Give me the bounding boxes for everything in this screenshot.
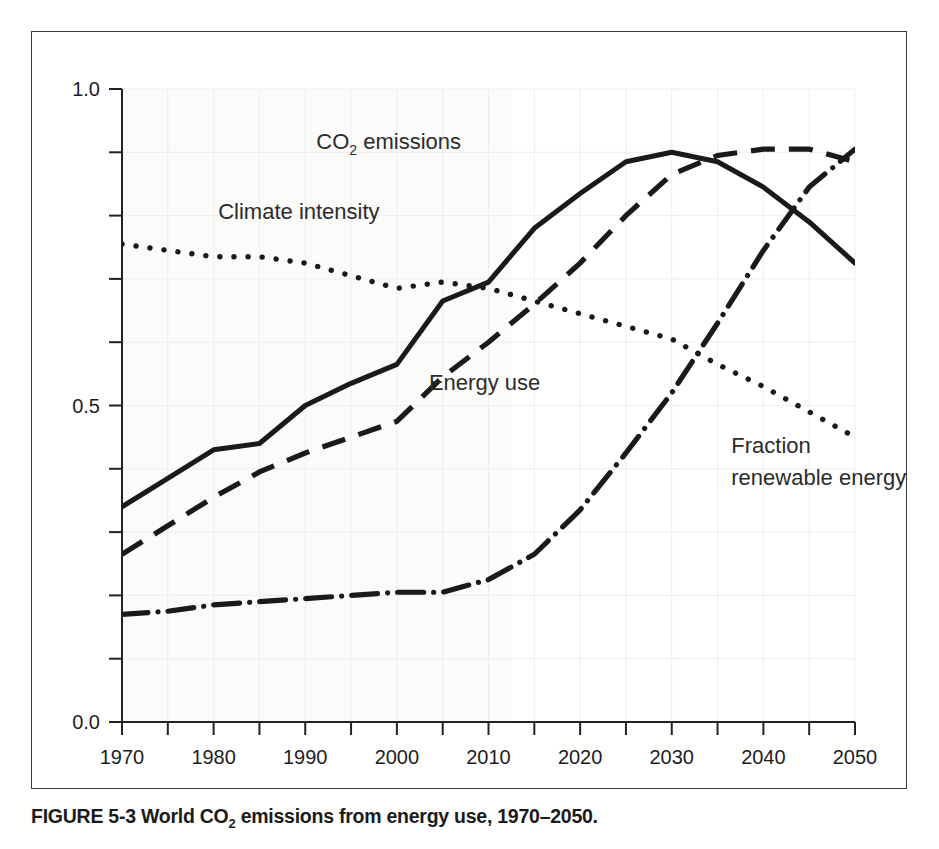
- figure-caption: FIGURE 5-3 World CO2 emissions from ener…: [31, 805, 907, 831]
- x-tick-label-2040: 2040: [741, 746, 786, 768]
- label-energy-use: Energy use: [429, 370, 540, 395]
- caption-prefix: FIGURE 5-3 World CO: [31, 805, 229, 827]
- caption-suffix: emissions from energy use, 1970–2050.: [235, 805, 597, 827]
- x-tick-label-2020: 2020: [558, 746, 603, 768]
- y-axis-ticks: [109, 89, 122, 722]
- label-climate-intensity: Climate intensity: [218, 199, 379, 224]
- y-tick-label-0.0: 0.0: [72, 711, 100, 733]
- x-tick-label-1990: 1990: [283, 746, 328, 768]
- label-fraction-renewable-line1: Fraction: [731, 433, 810, 458]
- x-tick-label-1970: 1970: [100, 746, 145, 768]
- co2-emissions-line-chart: 197019801990200020102020203020402050 0.0…: [0, 0, 939, 800]
- x-tick-label-1980: 1980: [191, 746, 236, 768]
- label-co2-emissions: CO2 emissions: [316, 129, 461, 158]
- x-tick-label-2000: 2000: [375, 746, 420, 768]
- x-tick-label-2030: 2030: [650, 746, 695, 768]
- figure-page: 197019801990200020102020203020402050 0.0…: [0, 0, 939, 849]
- y-tick-label-0.5: 0.5: [72, 395, 100, 417]
- label-fraction-renewable-line2: renewable energy: [731, 465, 906, 490]
- chart-plot-area: 197019801990200020102020203020402050 0.0…: [0, 0, 939, 800]
- x-axis-tick-labels: 197019801990200020102020203020402050: [100, 746, 878, 768]
- x-tick-label-2050: 2050: [833, 746, 878, 768]
- y-tick-label-1.0: 1.0: [72, 78, 100, 100]
- x-axis-ticks: [122, 722, 855, 735]
- y-axis-tick-labels: 0.00.51.0: [72, 78, 100, 733]
- x-tick-label-2010: 2010: [466, 746, 511, 768]
